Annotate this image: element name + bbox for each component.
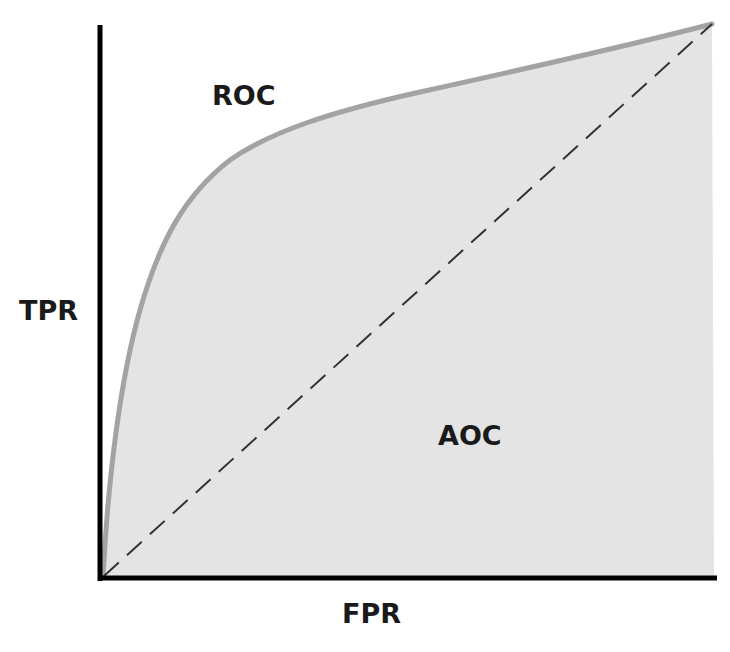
roc-curve-label: ROC (212, 80, 276, 111)
area-label: AOC (438, 420, 502, 451)
y-axis-label: TPR (19, 295, 78, 326)
x-axis-label: FPR (342, 598, 401, 629)
roc-chart (0, 0, 730, 652)
